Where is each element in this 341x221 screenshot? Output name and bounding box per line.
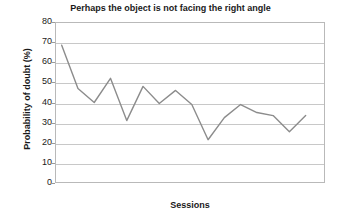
y-axis-tick-label: 20: [28, 138, 52, 147]
y-axis-tick-mark: [51, 183, 55, 184]
chart-title: Perhaps the object is not facing the rig…: [0, 3, 341, 14]
y-axis-tick-label: 0: [28, 178, 52, 187]
y-axis-tick-label: 30: [28, 118, 52, 127]
chart-container: Perhaps the object is not facing the rig…: [0, 0, 341, 221]
y-axis-tick-label: 60: [28, 57, 52, 66]
plot-area: [55, 22, 325, 183]
y-axis-tick-label: 40: [28, 98, 52, 107]
line-series: [56, 23, 326, 184]
y-axis-tick-label: 80: [28, 17, 52, 26]
series-polyline: [62, 45, 306, 140]
y-axis-tick-label: 70: [28, 37, 52, 46]
y-axis-tick-label: 10: [28, 158, 52, 167]
y-axis-tick-label: 50: [28, 77, 52, 86]
x-axis-label: Sessions: [55, 200, 325, 210]
